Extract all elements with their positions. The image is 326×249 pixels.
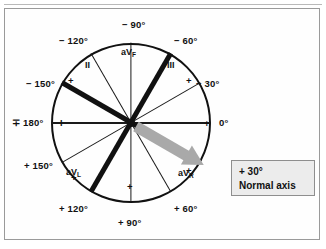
lead-label-aVF: aVF <box>121 48 136 57</box>
hexaxial-diagram: − 90° − 120° − 60° − 150° − 30° ∓ 180° 0… <box>26 18 236 228</box>
degree-label-plus-150: + 150° <box>24 161 53 171</box>
degree-label-minus-90: − 90° <box>122 20 146 30</box>
degree-label-minus-120: − 120° <box>59 36 88 46</box>
top-rule-divider <box>4 4 322 5</box>
callout-angle-text: + 30° <box>239 165 314 179</box>
degree-label-minus-150: − 150° <box>26 79 55 89</box>
lead-label-I: I <box>60 119 63 128</box>
axis-origin-hub <box>127 119 135 127</box>
lead-label-aVL-sub: L <box>77 171 81 178</box>
degree-label-plus-120: + 120° <box>59 204 88 214</box>
lead-label-II: II <box>85 61 90 70</box>
polarity-mark-minus-150: + <box>68 76 74 86</box>
callout-label-text: Normal axis <box>239 179 314 193</box>
degree-label-minus-60: − 60° <box>174 36 198 46</box>
degree-label-180: ∓ 180° <box>12 118 44 128</box>
degree-label-plus-90: + 90° <box>118 218 142 228</box>
polarity-mark-0: + <box>204 119 210 129</box>
polarity-mark-90: + <box>127 182 133 192</box>
lead-label-aVF-sub: F <box>132 51 136 58</box>
polarity-mark-120: + <box>71 173 77 183</box>
lead-label-aVF-base: aV <box>121 47 132 57</box>
polarity-mark-60: + <box>186 166 192 176</box>
normal-axis-callout: + 30° Normal axis <box>231 160 315 196</box>
lead-label-III: III <box>167 61 175 70</box>
degree-label-minus-30: − 30° <box>196 79 220 89</box>
figure-container: − 90° − 120° − 60° − 150° − 30° ∓ 180° 0… <box>0 0 326 249</box>
polarity-mark-minus-30: + <box>186 76 192 86</box>
degree-label-plus-60: + 60° <box>174 204 198 214</box>
degree-label-0: 0° <box>219 118 228 128</box>
